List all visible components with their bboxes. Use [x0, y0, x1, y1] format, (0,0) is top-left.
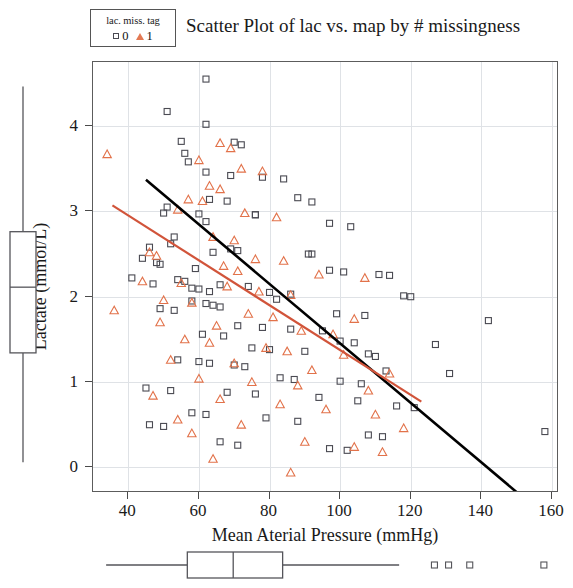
scatter-plot-figure: lac. miss. tag 0 1 Scatter Plot of lac v…	[0, 0, 573, 588]
legend: lac. miss. tag 0 1	[90, 9, 176, 47]
x-axis-title: Mean Aterial Pressure (mmHg)	[92, 525, 558, 546]
legend-items: 0 1	[113, 30, 153, 43]
x-tick-label: 140	[468, 501, 494, 520]
x-marginal-boxplot	[92, 548, 558, 588]
boxplot-outlier	[446, 562, 452, 568]
y-tick-mark	[85, 466, 92, 467]
chart-title: Scatter Plot of lac vs. map by # missing…	[186, 14, 566, 38]
x-tick-label: 120	[397, 501, 423, 520]
x-tick-mark	[480, 492, 481, 499]
fit-group-0	[146, 180, 517, 492]
x-tick-label: 80	[260, 501, 277, 520]
y-tick-mark	[85, 381, 92, 382]
legend-title: lac. miss. tag	[106, 15, 159, 27]
y-marginal-boxplot	[2, 61, 44, 492]
y-tick-mark	[85, 296, 92, 297]
boxplot-outlier	[431, 562, 437, 568]
boxplot-outlier	[541, 562, 547, 568]
x-tick-mark	[127, 492, 128, 499]
boxplot-outlier	[467, 562, 473, 568]
y-tick-mark	[85, 210, 92, 211]
legend-label-group-1: 1	[147, 30, 153, 43]
triangle-marker-icon	[136, 33, 144, 40]
y-tick-label: 1	[50, 372, 78, 391]
plot-panel	[92, 61, 558, 492]
x-tick-label: 40	[119, 501, 136, 520]
legend-label-group-0: 0	[122, 30, 128, 43]
x-tick-label: 100	[326, 501, 352, 520]
x-tick-mark	[551, 492, 552, 499]
boxplot-box	[187, 552, 282, 578]
x-tick-mark	[269, 492, 270, 499]
x-tick-mark	[198, 492, 199, 499]
legend-item-group-1[interactable]: 1	[136, 30, 153, 43]
x-tick-label: 160	[538, 501, 564, 520]
square-marker-icon	[113, 33, 119, 39]
y-tick-label: 4	[50, 116, 78, 135]
legend-item-group-0[interactable]: 0	[113, 30, 128, 43]
regression-lines-layer	[93, 62, 557, 491]
x-tick-label: 60	[189, 501, 206, 520]
boxplot-box	[10, 232, 36, 353]
y-tick-label: 3	[50, 201, 78, 220]
y-tick-mark	[85, 125, 92, 126]
y-tick-label: 0	[50, 457, 78, 476]
x-tick-mark	[339, 492, 340, 499]
fit-group-1	[112, 205, 421, 401]
y-tick-label: 2	[50, 286, 78, 305]
x-tick-mark	[410, 492, 411, 499]
